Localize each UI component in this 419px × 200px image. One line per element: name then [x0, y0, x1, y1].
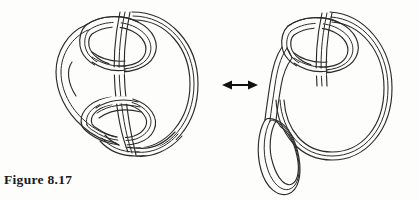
- vertical-crossing-band: [113, 12, 136, 155]
- connecting-band-stem: [265, 47, 292, 121]
- double-headed-equivalence-arrow: [222, 81, 258, 90]
- figure-caption: Figure 8.17: [4, 172, 72, 188]
- left-knot-diagram: [56, 12, 198, 156]
- figure-container: Figure 8.17: [0, 0, 419, 200]
- arrow-head-right: [248, 81, 258, 90]
- pendant-oval-loop: [258, 118, 300, 194]
- right-knot-diagram: [258, 12, 392, 195]
- arrow-head-left: [222, 81, 232, 90]
- left-cusp-band: [56, 25, 116, 143]
- figure-illustration: [0, 0, 419, 200]
